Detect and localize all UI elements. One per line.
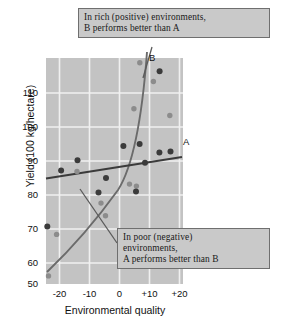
data-point-a — [156, 150, 162, 156]
x-tick-label-minus10: -10 — [74, 288, 105, 299]
x-tick-label-plus10: +10 — [134, 288, 165, 299]
data-point-b — [137, 60, 142, 65]
data-point-b — [54, 232, 59, 237]
curve-label-b: B — [149, 52, 155, 63]
data-point-b — [46, 273, 51, 278]
y-tick-label-70: 70 — [0, 223, 38, 234]
data-point-a — [133, 189, 139, 195]
data-point-b — [134, 183, 139, 188]
x-axis-label: Environmental quality — [46, 304, 184, 316]
annotation-poor-environments: In poor (negative) environments, A perfo… — [117, 228, 270, 269]
annotation-poor-line-3: A performs better than B — [123, 254, 265, 265]
data-point-b — [167, 113, 172, 118]
chart-canvas — [0, 0, 281, 327]
y-axis-label: Yield (100 kg/hectare) — [24, 56, 36, 216]
data-point-b — [151, 79, 156, 84]
data-point-a — [103, 175, 109, 181]
scatter-chart-figure: 110 100 90 80 70 60 50 -20 -10 0 +10 +20… — [0, 0, 281, 327]
data-point-b — [98, 200, 103, 205]
y-tick-label-50: 50 — [0, 278, 38, 289]
annotation-poor-line-1: In poor (negative) — [123, 232, 265, 243]
data-point-a — [137, 141, 143, 147]
annotation-poor-line-2: environments, — [123, 243, 265, 254]
data-point-b — [103, 213, 108, 218]
data-point-a — [58, 168, 64, 174]
data-point-a — [120, 143, 126, 149]
y-tick-label-60: 60 — [0, 257, 38, 268]
data-point-a — [168, 149, 174, 155]
data-point-a — [96, 190, 102, 196]
x-tick-label-plus20: +20 — [164, 288, 195, 299]
annotation-rich-environments: In rich (positive) environments, B perfo… — [78, 8, 270, 38]
x-tick-label-zero: 0 — [104, 288, 135, 299]
data-point-b — [131, 106, 136, 111]
data-point-a — [44, 224, 50, 230]
data-point-a — [142, 160, 148, 166]
data-point-a — [75, 157, 81, 163]
data-point-a — [157, 68, 163, 74]
annotation-rich-line-2: B performs better than A — [84, 23, 265, 34]
data-point-b — [74, 169, 79, 174]
annotation-rich-line-1: In rich (positive) environments, — [84, 12, 265, 23]
curve-label-a: A — [183, 136, 189, 147]
data-point-b — [127, 181, 132, 186]
x-tick-label-minus20: -20 — [44, 288, 75, 299]
